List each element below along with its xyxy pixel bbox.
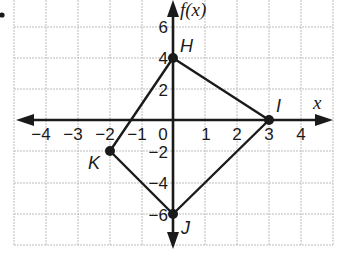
x-tick-label: −1 bbox=[127, 125, 146, 144]
point-h bbox=[168, 53, 178, 63]
x-tick-label: 3 bbox=[264, 125, 273, 144]
bullet-marker bbox=[0, 12, 5, 17]
point-i-label: I bbox=[276, 96, 281, 116]
point-i bbox=[264, 115, 274, 125]
x-tick-label: 1 bbox=[201, 125, 210, 144]
x-tick-label: 0 bbox=[158, 125, 167, 144]
x-tick-label: −2 bbox=[95, 125, 114, 144]
x-tick-label: −3 bbox=[63, 125, 82, 144]
x-axis-right-arrow-icon bbox=[315, 114, 333, 126]
point-j-label: J bbox=[180, 218, 191, 238]
y-axis-up-arrow-icon bbox=[167, 0, 179, 17]
x-axis-label: x bbox=[312, 92, 322, 113]
y-axis-label: f(x) bbox=[180, 0, 206, 21]
coordinate-plane-figure: x f(x) −4 −3 −2 −1 0 1 2 3 4 6 4 2 −2 −4… bbox=[0, 0, 338, 255]
y-tick-label: −4 bbox=[149, 174, 168, 193]
x-tick-label: 4 bbox=[296, 125, 305, 144]
y-tick-label: −2 bbox=[149, 143, 168, 162]
y-axis-down-arrow-icon bbox=[167, 232, 179, 249]
x-tick-label: −4 bbox=[31, 125, 50, 144]
point-k bbox=[105, 146, 115, 156]
y-tick-label: 6 bbox=[159, 18, 168, 37]
point-j bbox=[168, 209, 178, 219]
point-k-label: K bbox=[88, 153, 101, 173]
x-tick-label: 2 bbox=[232, 125, 241, 144]
point-h-label: H bbox=[180, 36, 194, 56]
y-tick-label: −6 bbox=[149, 206, 168, 225]
y-tick-label: 2 bbox=[159, 81, 168, 100]
x-tick-labels: −4 −3 −2 −1 0 1 2 3 4 bbox=[31, 125, 305, 144]
y-tick-label: 4 bbox=[159, 49, 168, 68]
